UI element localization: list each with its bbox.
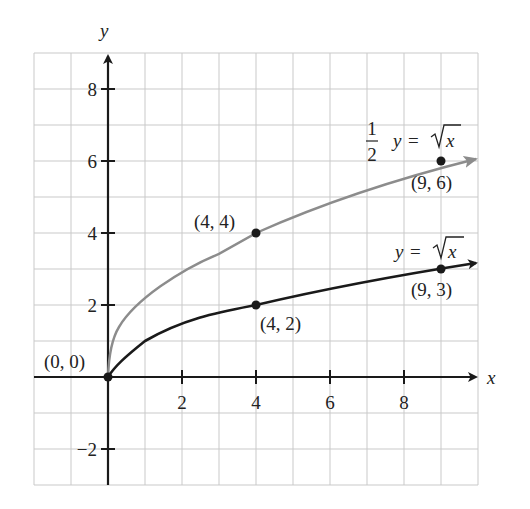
svg-text:y: y [391, 130, 402, 151]
svg-text:x: x [447, 241, 457, 262]
x-axis-label: x [486, 367, 496, 388]
point-4-2 [252, 301, 261, 310]
label-4-4: (4, 4) [194, 211, 235, 233]
x-tick-label: 6 [325, 392, 335, 413]
y-tick-label: 4 [88, 223, 98, 244]
x-tick-label: 4 [251, 392, 261, 413]
point-4-4 [252, 229, 261, 238]
y-tick-label: 8 [88, 79, 98, 100]
label-9-3: (9, 3) [411, 279, 452, 301]
y-axis-label: y [98, 20, 109, 41]
svg-text:=: = [408, 130, 419, 151]
svg-text:1: 1 [367, 118, 377, 139]
label-9-6: (9, 6) [411, 172, 452, 194]
grid [34, 53, 478, 485]
label-4-2: (4, 2) [260, 313, 301, 335]
point-origin [104, 373, 113, 382]
svg-text:=: = [410, 241, 421, 262]
sqrt-function-graph: x y 2 4 6 8 8 6 4 2 −2 [0, 0, 530, 509]
x-tick-label: 2 [177, 392, 187, 413]
point-9-3 [437, 265, 446, 274]
label-origin: (0, 0) [44, 351, 85, 373]
x-tick-label: 8 [399, 392, 409, 413]
svg-text:x: x [445, 130, 455, 151]
y-tick-label: −2 [77, 439, 97, 460]
point-9-6 [437, 157, 446, 166]
y-tick-label: 6 [88, 151, 98, 172]
svg-text:y: y [393, 241, 404, 262]
point-labels: (0, 0) (4, 2) (4, 4) (9, 3) (9, 6) [44, 172, 452, 373]
y-tick-label: 2 [88, 295, 98, 316]
svg-text:2: 2 [367, 144, 377, 165]
